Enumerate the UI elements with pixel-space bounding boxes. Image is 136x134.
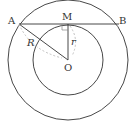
geometry-diagram: A M B O R r	[0, 0, 136, 134]
label-b: B	[119, 15, 126, 26]
label-r-outer: R	[26, 37, 35, 48]
label-o: O	[64, 62, 72, 73]
label-r-inner: r	[71, 36, 77, 47]
label-m: M	[62, 11, 72, 22]
label-a: A	[7, 15, 16, 26]
